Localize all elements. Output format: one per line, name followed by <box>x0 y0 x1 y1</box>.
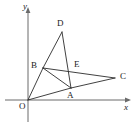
point-label-C: C <box>120 72 126 81</box>
point-label-D: D <box>57 19 64 28</box>
x-axis-label: x <box>124 103 128 112</box>
point-label-O: O <box>19 102 26 111</box>
segment-DA <box>62 32 71 88</box>
geometry-figure: O A B C D E x y <box>0 0 138 126</box>
segment-BC <box>43 68 115 78</box>
segment-AC <box>71 78 115 88</box>
segment-BD <box>43 32 62 68</box>
segment-OA <box>28 88 71 100</box>
point-label-A: A <box>67 91 74 100</box>
y-axis-label: y <box>23 2 27 11</box>
point-label-B: B <box>31 61 37 70</box>
segment-OB <box>28 68 43 100</box>
point-label-E: E <box>74 60 80 69</box>
